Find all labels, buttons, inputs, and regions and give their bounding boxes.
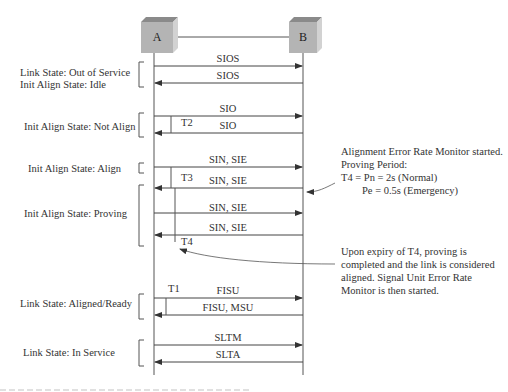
- note-line: aligned. Signal Unit Error Rate: [341, 271, 495, 284]
- message-label: SIN, SIE: [153, 202, 303, 213]
- state-line: Link State: Out of Service: [20, 67, 130, 79]
- note-line: Upon expiry of T4, proving is: [341, 245, 495, 258]
- message-label: SLTA: [153, 349, 303, 360]
- state-label-aligned-ready: Link State: Aligned/Ready: [20, 298, 132, 310]
- proving-note-pointer: [307, 183, 335, 192]
- state-label-not-align: Init Align State: Not Align: [24, 121, 135, 133]
- note-line: Alignment Error Rate Monitor started.: [341, 145, 503, 158]
- timer-t1-label: T1: [168, 283, 180, 294]
- message-label: SIN, SIE: [153, 154, 303, 165]
- note-line: Pe = 0.5s (Emergency): [341, 184, 503, 197]
- message-label: SIOS: [153, 70, 303, 81]
- node-a-label: A: [147, 30, 167, 45]
- state-label-align: Init Align State: Align: [28, 163, 121, 175]
- node-b-label: B: [293, 30, 313, 45]
- note-line: Proving Period:: [341, 158, 503, 171]
- state-label-in-service: Link State: In Service: [23, 347, 115, 359]
- message-label: FISU, MSU: [153, 302, 303, 313]
- timer-t2-label: T2: [181, 117, 193, 128]
- state-label-proving: Init Align State: Proving: [24, 208, 127, 220]
- message-label: SLTM: [153, 332, 303, 343]
- expiry-note-pointer: [180, 249, 335, 264]
- proving-period-note: Alignment Error Rate Monitor started. Pr…: [341, 145, 503, 197]
- state-label-out-of-service: Link State: Out of Service Init Align St…: [20, 67, 130, 91]
- state-brackets: [139, 62, 144, 366]
- t4-expiry-note: Upon expiry of T4, proving is completed …: [341, 245, 495, 297]
- message-label: SIN, SIE: [153, 175, 303, 186]
- figure-caption-clipped: [0, 387, 250, 392]
- message-label: SIN, SIE: [153, 222, 303, 233]
- note-line: Monitor is then started.: [341, 284, 495, 297]
- message-label: SIOS: [153, 53, 303, 64]
- message-label: SIO: [153, 120, 303, 131]
- timer-t4-label: T4: [181, 236, 193, 247]
- note-line: T4 = Pn = 2s (Normal): [341, 171, 503, 184]
- timer-t3-label: T3: [181, 172, 193, 183]
- message-label: SIO: [153, 103, 303, 114]
- note-line: completed and the link is considered: [341, 258, 495, 271]
- state-line: Init Align State: Idle: [20, 79, 130, 91]
